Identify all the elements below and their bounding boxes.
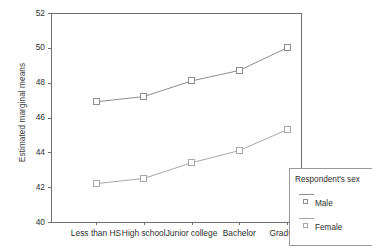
data-point-marker [236, 148, 242, 154]
legend-line-swatch [299, 218, 314, 219]
data-point-marker [189, 160, 195, 166]
axes [48, 13, 302, 225]
legend-square-marker-icon [303, 199, 308, 204]
legend-label: Female [315, 223, 342, 232]
data-point-marker [284, 127, 290, 133]
data-point-marker [284, 45, 290, 51]
legend-square-marker-icon [303, 223, 308, 228]
legend-entry-female[interactable]: Female [299, 215, 372, 237]
data-point-marker [93, 99, 99, 105]
data-point-marker [93, 181, 99, 187]
legend: Respondent's sex MaleFemale [289, 168, 372, 246]
data-point-marker [236, 67, 242, 73]
data-series [93, 45, 290, 187]
series-male [93, 45, 290, 105]
legend-title: Respondent's sex [295, 175, 360, 184]
data-point-marker [141, 94, 147, 100]
data-point-marker [189, 78, 195, 84]
legend-label: Male [315, 199, 333, 208]
chart-container: Estimated marginal means 40424446485052 … [0, 0, 372, 251]
legend-entry-male[interactable]: Male [299, 191, 372, 213]
series-female [93, 127, 290, 187]
legend-line-swatch [299, 194, 314, 195]
data-point-marker [141, 175, 147, 181]
